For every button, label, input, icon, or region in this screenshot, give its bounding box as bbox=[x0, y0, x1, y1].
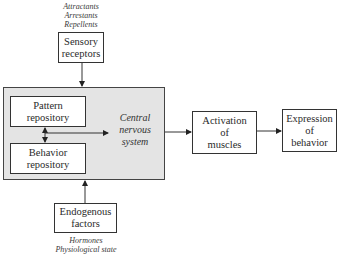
connector-arrows bbox=[0, 0, 343, 257]
